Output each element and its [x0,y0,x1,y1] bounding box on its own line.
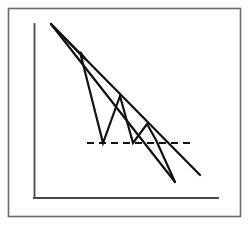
chart-figure [0,0,249,225]
descending-triangle-chart [0,0,249,225]
